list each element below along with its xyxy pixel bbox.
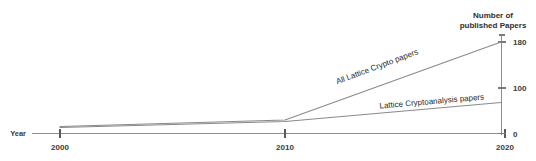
x-axis-title: Year	[10, 129, 26, 138]
y-tick-label-100: 100	[513, 84, 527, 93]
series-line-lattice-cryptoanalysis-papers	[60, 103, 501, 128]
series-label-lattice-cryptoanalysis-papers: Lattice Cryptoanalysis papers	[379, 92, 484, 110]
x-tick-label-2020: 2020	[496, 143, 514, 152]
y-tick-label-180: 180	[513, 38, 527, 47]
series-label-all-lattice-crypto-papers: All Lattice Crypto papers	[335, 47, 420, 86]
series-line-all-lattice-crypto-papers	[60, 42, 501, 127]
y-tick-label-0: 0	[513, 130, 518, 139]
x-tick-label-2010: 2010	[276, 143, 294, 152]
y-axis-title-line2: published Papers	[460, 21, 527, 30]
line-chart: 2000 2010 2020 0 100 180 Year Number of …	[0, 0, 536, 161]
y-axis-title-line1: Number of	[473, 11, 513, 20]
chart-container: 2000 2010 2020 0 100 180 Year Number of …	[0, 0, 536, 161]
x-tick-label-2000: 2000	[51, 143, 69, 152]
